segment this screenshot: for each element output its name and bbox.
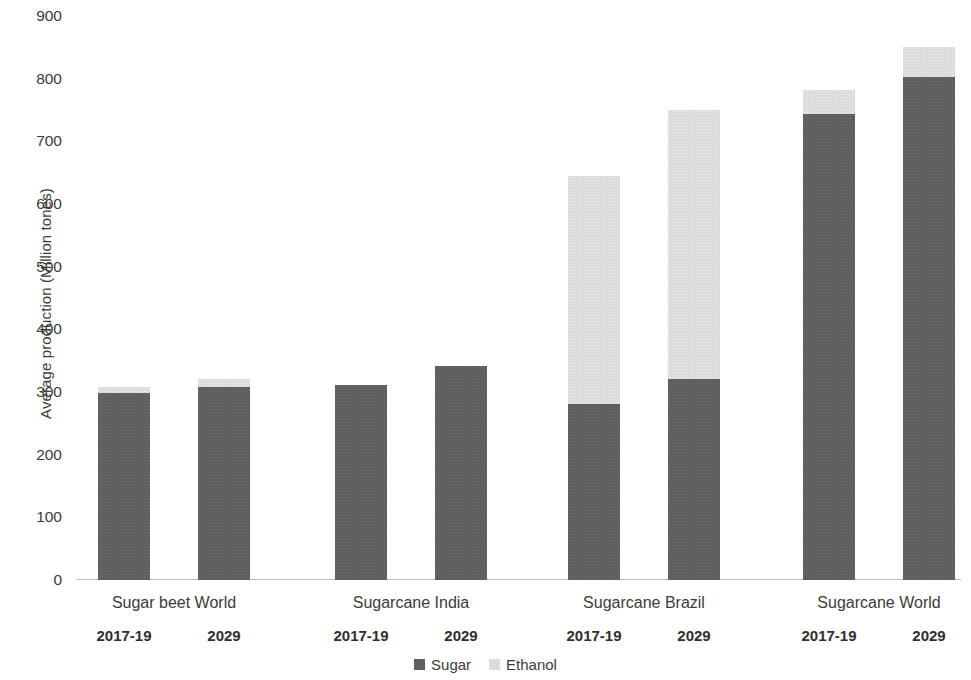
x-period-label: 2029: [879, 628, 971, 643]
y-tick-label: 500: [16, 259, 62, 275]
x-period-label: 2017-19: [779, 628, 879, 643]
bar-segment-ethanol: [803, 90, 855, 114]
x-group-label: Sugarcane Brazil: [534, 595, 754, 611]
bar-segment-ethanol: [568, 176, 620, 404]
x-axis-group-labels: Sugar beet WorldSugarcane IndiaSugarcane…: [76, 595, 961, 619]
y-tick-label: 200: [16, 447, 62, 463]
bar-segment-sugar: [803, 114, 855, 580]
y-tick-label: 900: [16, 8, 62, 24]
y-tick-label: 700: [16, 133, 62, 149]
bar-segment-sugar: [198, 387, 250, 580]
bar-segment-sugar: [903, 77, 955, 580]
bar-segment-ethanol: [903, 47, 955, 76]
x-group-label: Sugar beet World: [64, 595, 284, 611]
x-axis-period-labels: 2017-1920292017-1920292017-1920292017-19…: [76, 628, 961, 652]
bar-segment-ethanol: [98, 387, 150, 393]
stacked-bar-chart: Average production (Million tones) 90080…: [0, 0, 971, 680]
y-axis-tick-labels: 9008007006005004003002001000: [16, 0, 62, 680]
chart-legend: SugarEthanol: [0, 657, 971, 672]
x-group-label: Sugarcane World: [769, 595, 971, 611]
y-tick-label: 300: [16, 384, 62, 400]
bar-segment-sugar: [568, 404, 620, 580]
x-period-label: 2017-19: [74, 628, 174, 643]
bar-segment-sugar: [435, 366, 487, 580]
bar-4: [568, 176, 620, 580]
legend-label: Sugar: [431, 657, 471, 672]
bar-1: [198, 379, 250, 580]
bar-2: [335, 385, 387, 580]
ethanol-swatch-icon: [489, 659, 500, 670]
legend-label: Ethanol: [506, 657, 557, 672]
x-period-label: 2017-19: [311, 628, 411, 643]
x-period-label: 2017-19: [544, 628, 644, 643]
x-period-label: 2029: [644, 628, 744, 643]
x-period-label: 2029: [174, 628, 274, 643]
legend-item-sugar[interactable]: Sugar: [414, 657, 471, 672]
sugar-swatch-icon: [414, 659, 425, 670]
bar-0: [98, 387, 150, 580]
y-tick-label: 800: [16, 71, 62, 87]
x-period-label: 2029: [411, 628, 511, 643]
plot-area: [76, 8, 961, 580]
bar-segment-sugar: [335, 385, 387, 580]
bar-segment-ethanol: [198, 379, 250, 387]
y-tick-label: 100: [16, 509, 62, 525]
bar-segment-sugar: [98, 393, 150, 580]
legend-item-ethanol[interactable]: Ethanol: [489, 657, 557, 672]
y-tick-label: 0: [16, 572, 62, 588]
x-group-label: Sugarcane India: [301, 595, 521, 611]
y-tick-label: 400: [16, 321, 62, 337]
bar-7: [903, 47, 955, 580]
bar-5: [668, 110, 720, 580]
bar-3: [435, 366, 487, 580]
bar-segment-ethanol: [668, 110, 720, 379]
bar-6: [803, 90, 855, 580]
bar-segment-sugar: [668, 379, 720, 580]
y-tick-label: 600: [16, 196, 62, 212]
